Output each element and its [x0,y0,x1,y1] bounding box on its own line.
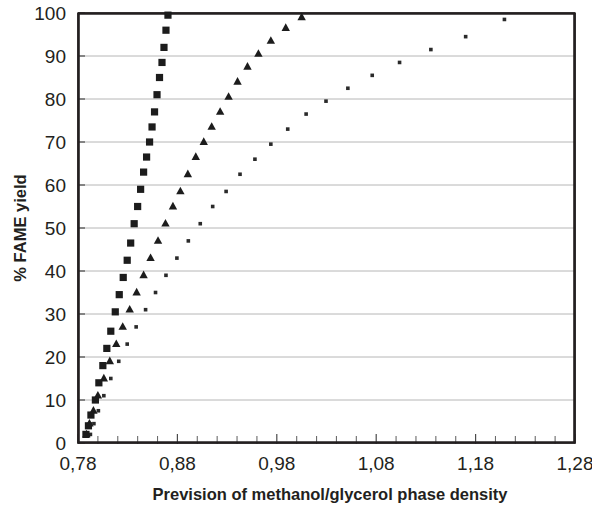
y-tick-label-0: 0 [55,433,66,454]
data-point [92,396,99,403]
data-point [286,127,290,131]
x-tick-label-1,18: 1,18 [457,453,494,474]
data-point [503,18,507,22]
data-point [164,12,171,19]
data-point [198,222,202,226]
y-tick-label-60: 60 [45,175,66,196]
x-tick-label-1,28: 1,28 [557,453,592,474]
data-point [125,342,129,346]
data-point [99,362,106,369]
data-point [146,138,153,145]
data-point [103,345,110,352]
data-point [109,377,113,381]
data-point [144,308,148,312]
data-point [107,328,114,335]
data-point [269,142,273,146]
y-tick-label-40: 40 [45,261,66,282]
data-point [117,360,121,364]
data-point [143,153,150,160]
data-point [398,61,402,65]
data-point [95,379,102,386]
data-point [124,257,131,264]
data-point [160,44,167,51]
data-point [131,220,138,227]
data-point [187,239,191,243]
data-point [134,203,141,210]
chart-figure: 0102030405060708090100 0,780,880,981,081… [0,0,592,506]
data-point [97,409,101,413]
data-point [85,422,92,429]
data-point [224,190,228,194]
data-point [134,325,138,329]
y-tick-label-90: 90 [45,46,66,67]
data-point [87,411,94,418]
data-point [211,205,215,209]
y-tick-label-100: 100 [34,3,66,24]
x-tick-label-0,98: 0,98 [258,453,295,474]
data-point [112,308,119,315]
data-point [175,256,179,260]
data-point [102,394,106,398]
data-point [304,112,308,116]
data-point [464,35,468,39]
data-point [137,186,144,193]
y-axis-tick-labels: 0102030405060708090100 [34,3,66,454]
data-point [151,108,158,115]
data-point [162,27,169,34]
x-tick-label-1,08: 1,08 [358,453,395,474]
data-point [324,99,328,103]
chart-canvas: 0102030405060708090100 0,780,880,981,081… [0,0,592,506]
data-point [156,74,163,81]
y-tick-label-20: 20 [45,347,66,368]
x-tick-label-0,78: 0,78 [60,453,97,474]
data-point [154,291,158,295]
data-point [164,274,168,278]
data-point [148,123,155,130]
data-point [238,172,242,176]
y-tick-label-70: 70 [45,132,66,153]
y-tick-label-30: 30 [45,304,66,325]
y-tick-label-50: 50 [45,218,66,239]
data-point [370,74,374,78]
y-tick-label-80: 80 [45,89,66,110]
data-point [82,431,89,438]
data-point [120,274,127,281]
data-point [346,86,350,90]
x-tick-label-0,88: 0,88 [159,453,196,474]
x-axis-title: Prevision of methanol/glycerol phase den… [153,485,509,503]
data-point [140,169,147,176]
data-point [127,239,134,246]
data-point [429,48,433,52]
y-tick-label-10: 10 [45,390,66,411]
data-point [158,59,165,66]
data-point [253,157,257,161]
data-point [116,291,123,298]
data-point [153,91,160,98]
x-axis-tick-labels: 0,780,880,981,081,181,28 [60,453,592,474]
y-axis-title: % FAME yield [11,174,29,281]
